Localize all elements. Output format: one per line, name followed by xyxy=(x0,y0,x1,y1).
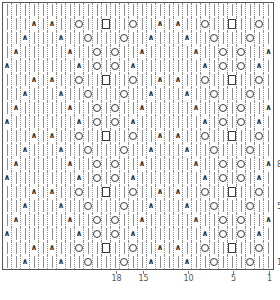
chart-cell-yo[interactable] xyxy=(84,87,93,101)
chart-cell-knit[interactable] xyxy=(219,241,228,255)
chart-cell-knit[interactable] xyxy=(165,199,174,213)
chart-cell-knit[interactable] xyxy=(264,255,273,269)
chart-cell-square[interactable] xyxy=(228,129,237,143)
chart-cell-knit[interactable] xyxy=(201,3,210,17)
chart-cell-dec[interactable] xyxy=(147,143,156,157)
chart-cell-knit[interactable] xyxy=(84,213,93,227)
chart-cell-knit[interactable] xyxy=(3,45,12,59)
chart-cell-dec[interactable] xyxy=(21,31,30,45)
chart-cell-dec[interactable] xyxy=(255,227,264,241)
chart-cell-yo[interactable] xyxy=(237,115,246,129)
chart-cell-knit[interactable] xyxy=(147,129,156,143)
chart-cell-knit[interactable] xyxy=(3,3,12,17)
chart-cell-yo[interactable] xyxy=(246,87,255,101)
chart-cell-knit[interactable] xyxy=(210,171,219,185)
chart-cell-dec[interactable] xyxy=(255,171,264,185)
chart-cell-dec[interactable] xyxy=(183,255,192,269)
chart-cell-yo[interactable] xyxy=(219,115,228,129)
chart-cell-knit[interactable] xyxy=(210,157,219,171)
chart-cell-dec[interactable] xyxy=(129,115,138,129)
chart-cell-knit[interactable] xyxy=(228,45,237,59)
chart-cell-knit[interactable] xyxy=(57,17,66,31)
chart-cell-knit[interactable] xyxy=(66,185,75,199)
chart-cell-dec[interactable] xyxy=(147,87,156,101)
chart-cell-knit[interactable] xyxy=(219,185,228,199)
chart-cell-knit[interactable] xyxy=(66,73,75,87)
chart-cell-knit[interactable] xyxy=(264,143,273,157)
chart-cell-knit[interactable] xyxy=(246,101,255,115)
chart-cell-knit[interactable] xyxy=(201,255,210,269)
chart-cell-dec[interactable] xyxy=(3,227,12,241)
chart-cell-knit[interactable] xyxy=(174,87,183,101)
chart-cell-knit[interactable] xyxy=(246,227,255,241)
chart-cell-dec[interactable] xyxy=(57,87,66,101)
chart-cell-knit[interactable] xyxy=(237,185,246,199)
chart-cell-knit[interactable] xyxy=(237,3,246,17)
chart-cell-knit[interactable] xyxy=(21,227,30,241)
chart-cell-knit[interactable] xyxy=(183,73,192,87)
chart-cell-dec[interactable] xyxy=(48,129,57,143)
chart-cell-knit[interactable] xyxy=(84,129,93,143)
chart-cell-knit[interactable] xyxy=(3,87,12,101)
chart-cell-knit[interactable] xyxy=(120,227,129,241)
chart-cell-knit[interactable] xyxy=(30,157,39,171)
chart-cell-knit[interactable] xyxy=(21,241,30,255)
chart-cell-knit[interactable] xyxy=(228,199,237,213)
chart-cell-knit[interactable] xyxy=(264,59,273,73)
chart-cell-knit[interactable] xyxy=(192,129,201,143)
chart-cell-knit[interactable] xyxy=(48,115,57,129)
chart-cell-knit[interactable] xyxy=(120,101,129,115)
chart-cell-dec[interactable] xyxy=(21,87,30,101)
chart-cell-knit[interactable] xyxy=(120,115,129,129)
chart-cell-knit[interactable] xyxy=(210,17,219,31)
chart-cell-knit[interactable] xyxy=(147,241,156,255)
chart-cell-square[interactable] xyxy=(228,185,237,199)
chart-cell-yo[interactable] xyxy=(111,213,120,227)
chart-cell-knit[interactable] xyxy=(228,59,237,73)
chart-cell-knit[interactable] xyxy=(30,143,39,157)
chart-cell-knit[interactable] xyxy=(138,255,147,269)
chart-cell-knit[interactable] xyxy=(12,143,21,157)
chart-cell-yo[interactable] xyxy=(237,101,246,115)
chart-cell-knit[interactable] xyxy=(120,157,129,171)
chart-cell-knit[interactable] xyxy=(237,17,246,31)
chart-cell-yo[interactable] xyxy=(93,227,102,241)
chart-cell-dec[interactable] xyxy=(12,101,21,115)
chart-cell-knit[interactable] xyxy=(255,3,264,17)
chart-cell-knit[interactable] xyxy=(246,45,255,59)
chart-cell-knit[interactable] xyxy=(111,31,120,45)
chart-cell-knit[interactable] xyxy=(21,59,30,73)
chart-cell-knit[interactable] xyxy=(237,241,246,255)
chart-cell-yo[interactable] xyxy=(111,59,120,73)
chart-cell-yo[interactable] xyxy=(111,227,120,241)
chart-cell-knit[interactable] xyxy=(174,59,183,73)
chart-cell-knit[interactable] xyxy=(66,199,75,213)
chart-cell-knit[interactable] xyxy=(30,59,39,73)
chart-cell-knit[interactable] xyxy=(93,3,102,17)
chart-cell-yo[interactable] xyxy=(129,73,138,87)
chart-cell-dec[interactable] xyxy=(156,129,165,143)
chart-cell-knit[interactable] xyxy=(138,185,147,199)
chart-cell-knit[interactable] xyxy=(48,157,57,171)
chart-cell-knit[interactable] xyxy=(39,115,48,129)
chart-cell-knit[interactable] xyxy=(48,199,57,213)
chart-cell-yo[interactable] xyxy=(93,101,102,115)
chart-cell-knit[interactable] xyxy=(147,157,156,171)
chart-cell-dec[interactable] xyxy=(66,213,75,227)
chart-cell-knit[interactable] xyxy=(147,213,156,227)
chart-cell-yo[interactable] xyxy=(255,17,264,31)
chart-cell-knit[interactable] xyxy=(183,157,192,171)
chart-cell-square[interactable] xyxy=(228,73,237,87)
chart-cell-knit[interactable] xyxy=(228,143,237,157)
chart-grid[interactable] xyxy=(2,2,274,270)
chart-cell-knit[interactable] xyxy=(174,171,183,185)
chart-cell-knit[interactable] xyxy=(138,73,147,87)
chart-cell-knit[interactable] xyxy=(66,171,75,185)
chart-cell-yo[interactable] xyxy=(237,59,246,73)
chart-cell-dec[interactable] xyxy=(3,59,12,73)
chart-cell-yo[interactable] xyxy=(120,31,129,45)
chart-cell-knit[interactable] xyxy=(66,143,75,157)
chart-cell-knit[interactable] xyxy=(3,73,12,87)
chart-cell-knit[interactable] xyxy=(111,241,120,255)
chart-cell-dec[interactable] xyxy=(192,45,201,59)
